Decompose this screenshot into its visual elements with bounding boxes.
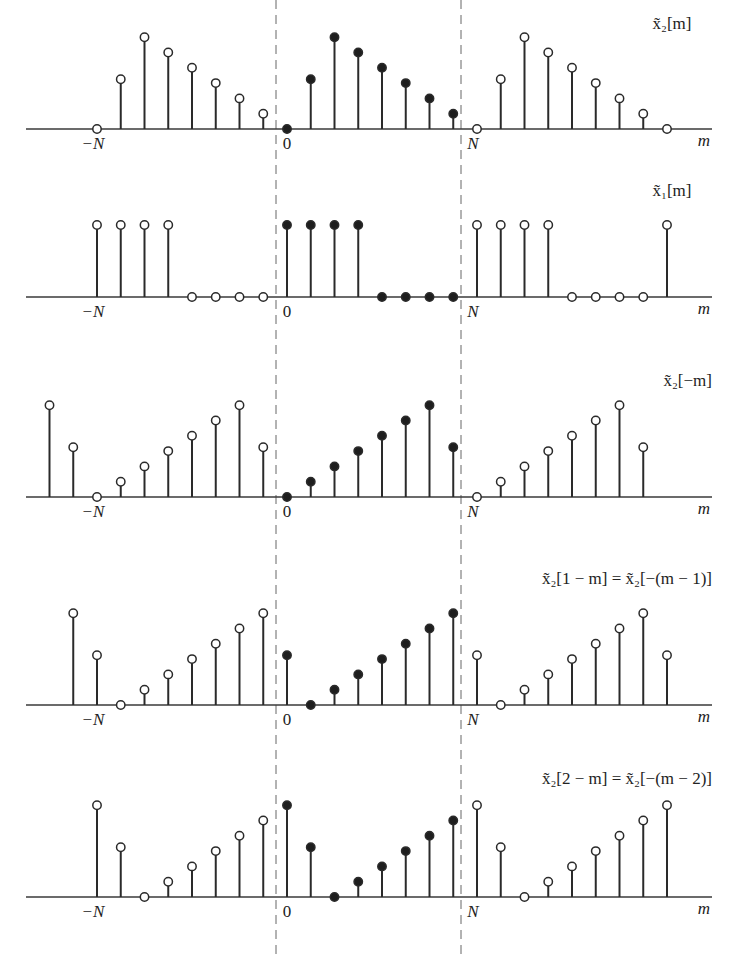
stem-series: −N0Nm [26,401,712,521]
open-marker [663,651,671,659]
open-marker [592,416,600,424]
filled-marker [449,293,457,301]
open-marker [544,221,552,229]
open-marker [592,847,600,855]
filled-marker [378,655,386,663]
filled-marker [307,478,315,486]
open-marker [473,651,481,659]
filled-marker [283,651,291,659]
open-marker [140,686,148,694]
filled-marker [378,293,386,301]
filled-marker [425,832,433,840]
open-marker [639,443,647,451]
open-marker [188,862,196,870]
open-marker [164,878,172,886]
open-marker [473,125,481,133]
filled-marker [354,48,362,56]
open-marker [188,64,196,72]
filled-marker [307,221,315,229]
open-marker [497,221,505,229]
tick-label-minus-n: −N [82,502,106,521]
open-marker [235,624,243,632]
panel-title: x̃₂[m] [653,14,692,33]
open-marker [259,110,267,118]
panel-x2-2-minus-m: −N0Nm x̃₂[2 − m] = x̃₂[−(m − 2)] [26,769,712,921]
open-marker [615,832,623,840]
filled-marker [283,493,291,501]
open-marker [259,443,267,451]
open-marker [117,75,125,83]
filled-marker [378,862,386,870]
tick-label-n: N [466,502,480,521]
open-marker [615,401,623,409]
tick-label-minus-n: −N [82,902,106,921]
tick-label-n: N [466,710,480,729]
open-marker [259,816,267,824]
open-marker [568,862,576,870]
open-marker [117,843,125,851]
open-marker [544,878,552,886]
x-axis-label-m: m [698,499,710,518]
open-marker [93,801,101,809]
panel-title: x̃₂[2 − m] = x̃₂[−(m − 2)] [542,769,712,788]
open-marker [544,670,552,678]
open-marker [497,843,505,851]
open-marker [259,609,267,617]
filled-marker [354,670,362,678]
open-marker [45,401,53,409]
filled-marker [449,443,457,451]
panel-title: x̃₂[−m] [663,371,712,390]
open-marker [639,609,647,617]
open-marker [235,293,243,301]
tick-label-zero: 0 [283,902,292,921]
open-marker [615,624,623,632]
open-marker [497,701,505,709]
filled-marker [283,125,291,133]
x-axis-label-m: m [698,899,710,918]
open-marker [497,478,505,486]
filled-marker [378,64,386,72]
open-marker [568,64,576,72]
open-marker [212,847,220,855]
open-marker [140,221,148,229]
stem-series: −N0Nm [26,221,712,321]
filled-marker [330,686,338,694]
panel-x2-1-minus-m: −N0Nm x̃₂[1 − m] = x̃₂[−(m − 1)] [26,569,712,729]
stem-series: −N0Nm [26,33,712,153]
tick-label-n: N [466,902,480,921]
filled-marker [330,462,338,470]
open-marker [212,640,220,648]
open-marker [473,221,481,229]
open-marker [93,651,101,659]
filled-marker [402,293,410,301]
tick-label-n: N [466,134,480,153]
filled-marker [354,221,362,229]
open-marker [663,125,671,133]
filled-marker [307,843,315,851]
filled-marker [283,221,291,229]
x-axis-label-m: m [698,299,710,318]
filled-marker [449,816,457,824]
panel-title: x̃₂[1 − m] = x̃₂[−(m − 1)] [542,569,712,588]
open-marker [520,686,528,694]
tick-label-minus-n: −N [82,134,106,153]
open-marker [117,221,125,229]
open-marker [164,447,172,455]
open-marker [520,221,528,229]
open-marker [615,94,623,102]
filled-marker [449,609,457,617]
open-marker [592,640,600,648]
open-marker [140,462,148,470]
filled-marker [425,401,433,409]
panel-x2-neg-m: −N0Nm x̃₂[−m] [26,371,712,521]
open-marker [140,33,148,41]
open-marker [520,33,528,41]
filled-marker [402,416,410,424]
open-marker [663,801,671,809]
open-marker [639,816,647,824]
tick-label-minus-n: −N [82,710,106,729]
stem-series: −N0Nm [26,801,712,921]
open-marker [520,462,528,470]
filled-marker [307,701,315,709]
filled-marker [330,221,338,229]
